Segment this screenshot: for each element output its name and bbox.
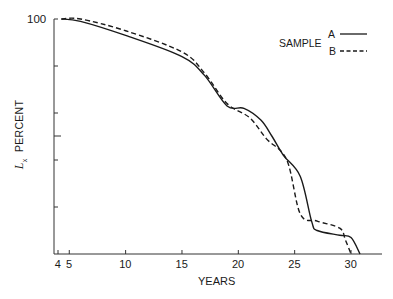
legend-swatches xyxy=(340,34,367,51)
x-tick-label: 25 xyxy=(288,259,300,270)
x-tick-label: 10 xyxy=(119,259,131,270)
y-axis-unit: PERCENT xyxy=(13,100,25,152)
y-axis-symbol: L xyxy=(12,162,26,169)
y-axis-subscript: x xyxy=(21,159,28,163)
x-tick-label: 4 xyxy=(55,259,61,270)
legend-entry-b: B xyxy=(329,46,336,57)
x-axis-label: YEARS xyxy=(198,276,235,287)
legend-title: SAMPLE xyxy=(279,38,322,49)
legend-entry-a: A xyxy=(328,29,335,40)
series-b-line xyxy=(61,18,351,254)
y-tick-label-100: 100 xyxy=(27,14,46,25)
series-a-line xyxy=(61,19,360,254)
x-tick-label: 20 xyxy=(232,259,244,270)
series-lines xyxy=(61,18,360,254)
x-tick-label: 15 xyxy=(176,259,188,270)
x-tick-label: 5 xyxy=(66,259,72,270)
x-tick-label: 30 xyxy=(345,259,357,270)
y-axis-label: Lx PERCENT xyxy=(12,95,27,175)
